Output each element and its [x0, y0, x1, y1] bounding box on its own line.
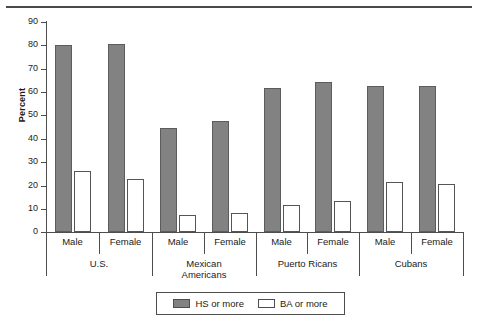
y-tick-label-30: 30 [18, 157, 38, 166]
y-tick-label-10: 10 [18, 204, 38, 213]
x-group-label-mexican: Mexican Americans [152, 258, 256, 280]
figure-container: Percent 90 80 70 60 50 40 30 20 10 0 [0, 0, 478, 335]
y-tick-30 [41, 162, 46, 163]
legend-entry-hs: HS or more [173, 299, 244, 309]
group-separator [463, 254, 464, 276]
y-tick-label-60: 60 [18, 87, 38, 96]
bar-pr-male-ba-or-more [283, 205, 300, 232]
x-sub-label-pr-female: Female [307, 236, 359, 247]
y-tick-label-0: 0 [18, 227, 38, 236]
bar-cuban-female-ba-or-more [438, 184, 455, 232]
y-tick-60 [41, 92, 46, 93]
y-tick-label-70: 70 [18, 64, 38, 73]
y-tick-20 [41, 186, 46, 187]
x-sub-label-cuban-male: Male [359, 236, 411, 247]
bar-cuban-male-ba-or-more [386, 182, 403, 232]
legend-label-ba: BA or more [280, 299, 328, 309]
x-sub-label-us-female: Female [99, 236, 152, 247]
bar-pr-male-hs-or-more [264, 88, 281, 232]
y-axis-line [46, 21, 47, 233]
bar-mexican-female-hs-or-more [212, 121, 229, 232]
bar-us-female-hs-or-more [108, 44, 125, 233]
x-sub-label-mex-female: Female [204, 236, 256, 247]
legend-label-hs: HS or more [195, 299, 244, 309]
bar-pr-female-hs-or-more [315, 82, 332, 232]
legend-swatch-filled-icon [173, 299, 190, 308]
x-group-label-cubans: Cubans [359, 258, 463, 269]
chart-plot-area: Percent 90 80 70 60 50 40 30 20 10 0 [0, 0, 478, 335]
y-tick-80 [41, 45, 46, 46]
bar-us-female-ba-or-more [127, 179, 144, 232]
bar-us-male-ba-or-more [74, 171, 91, 232]
cat-separator [463, 232, 464, 254]
x-axis-line [46, 232, 463, 233]
x-group-label-us: U.S. [46, 258, 152, 269]
y-tick-90 [41, 22, 46, 23]
bar-mexican-male-hs-or-more [160, 128, 177, 232]
y-tick-70 [41, 69, 46, 70]
x-sub-label-pr-male: Male [256, 236, 307, 247]
bar-cuban-female-hs-or-more [419, 86, 436, 232]
bar-cuban-male-hs-or-more [367, 86, 384, 232]
y-tick-label-40: 40 [18, 134, 38, 143]
y-tick-label-80: 80 [18, 40, 38, 49]
y-tick-label-90: 90 [18, 17, 38, 26]
x-group-label-pr: Puerto Ricans [256, 258, 359, 269]
bar-us-male-hs-or-more [55, 45, 72, 232]
bar-mexican-male-ba-or-more [179, 215, 196, 232]
chart-legend: HS or more BA or more [156, 292, 345, 315]
bar-mexican-female-ba-or-more [231, 213, 248, 232]
legend-entry-ba: BA or more [258, 299, 328, 309]
y-tick-40 [41, 139, 46, 140]
x-sub-label-mex-male: Male [152, 236, 204, 247]
legend-swatch-hollow-icon [258, 299, 275, 308]
y-tick-10 [41, 209, 46, 210]
y-axis-title: Percent [17, 75, 27, 135]
bar-pr-female-ba-or-more [334, 201, 351, 232]
y-tick-50 [41, 115, 46, 116]
x-sub-label-cuban-female: Female [411, 236, 463, 247]
y-tick-label-50: 50 [18, 110, 38, 119]
y-tick-label-20: 20 [18, 181, 38, 190]
x-sub-label-us-male: Male [46, 236, 99, 247]
